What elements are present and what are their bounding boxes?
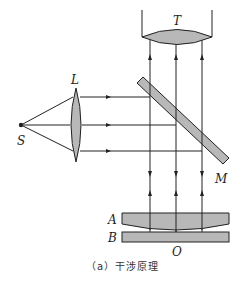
label-o: O xyxy=(172,245,182,259)
label-b: B xyxy=(107,231,117,245)
figure-caption: （a）干涉原理 xyxy=(86,260,159,272)
label-s: S xyxy=(17,134,25,148)
label-l: L xyxy=(70,73,79,87)
ray-arrows-down xyxy=(148,171,204,177)
ray-arrows-up-bottom xyxy=(148,190,204,196)
label-m: M xyxy=(214,172,228,186)
label-t: T xyxy=(173,14,182,28)
label-a: A xyxy=(107,213,117,227)
ray-arrows-up-top xyxy=(148,54,204,60)
flat-plate-b xyxy=(122,232,229,242)
diverging-rays xyxy=(21,97,73,151)
interference-diagram: S L T M A B O （a）干涉原理 xyxy=(0,0,245,289)
ray-arrows-horizontal xyxy=(106,95,111,153)
